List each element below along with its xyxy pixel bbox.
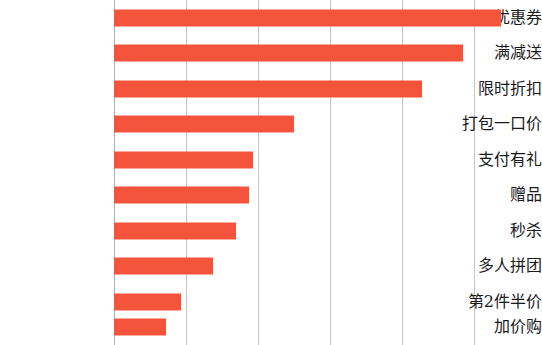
bar-track [114,258,213,275]
bar-row: 打包一口价 [0,107,542,143]
bar-track [114,319,166,336]
bar-row: 限时折扣 [0,71,542,107]
category-label: 秒杀 [432,222,542,240]
bar-chart: 优惠券 满减送 限时折扣 打包一口价 支付有礼 赠品 秒杀 [0,0,542,345]
bar-value [114,80,422,97]
bar-row: 赠品 [0,178,542,214]
bar-row: 秒杀 [0,213,542,249]
category-label: 多人拼团 [432,257,542,275]
bar-value [114,9,501,26]
category-label: 打包一口价 [432,115,542,133]
bar-row: 多人拼团 [0,249,542,285]
bar-row: 支付有礼 [0,142,542,178]
category-label: 第2件半价 [432,293,542,311]
bar-row: 满减送 [0,36,542,72]
category-label: 赠品 [432,186,542,204]
bar-value [114,319,166,336]
category-label: 限时折扣 [432,80,542,98]
bar-track [114,80,422,97]
bar-value [114,222,236,239]
bar-track [114,151,253,168]
bar-value [114,187,249,204]
bar-value [114,258,213,275]
bar-track [114,9,501,26]
bar-value [114,45,463,62]
bar-track [114,45,463,62]
bar-value [114,116,294,133]
bar-value [114,293,181,310]
bar-track [114,222,236,239]
bar-track [114,293,181,310]
bar-track [114,187,249,204]
bar-track [114,116,294,133]
bar-value [114,151,253,168]
category-label: 加价购 [432,318,542,336]
bar-row: 优惠券 [0,0,542,36]
category-label: 支付有礼 [432,151,542,169]
bar-row: 加价购 [0,310,542,345]
